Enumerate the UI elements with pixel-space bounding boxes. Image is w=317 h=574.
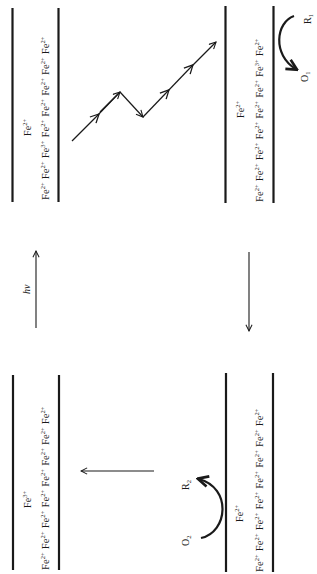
reduction-curved-arrow [199,479,223,538]
panel-top-right-surface-label: Fe2+ [235,101,246,118]
panel-bottom-right-ion-chain: Fe2+Fe2+Fe2+Fe2+Fe2+Fe2+Fe2+Fe2+ [254,405,266,572]
panel-bottom-left-membranes [13,375,59,570]
reduced-species-r2: R2 [181,480,193,490]
diagram-canvas: Fe2+ Fe2+Fe2+Fe3+Fe2+Fe2+Fe2+Fe2+Fe2+ Fe… [0,0,317,574]
panel-bottom-right-surface-label: Fe2+ [234,505,245,522]
excitation-label-hv: hν [22,284,32,294]
panel-bottom-right-membranes [226,373,273,572]
oxidized-species-o1: O1 [300,71,312,82]
oxidized-species-o2: O2 [181,535,193,546]
panel-bottom-left-ion-chain: Fe2+Fe2+Fe2+Fe2+Fe2+Fe2+Fe2+Fe2+ [40,403,52,570]
panel-top-right-membranes [226,6,274,203]
panel-top-left-surface-label: Fe2+ [22,119,33,136]
panel-bottom-left-surface-label: Fe3+ [22,491,33,508]
panel-top-left-membranes [13,8,59,202]
hopping-path [72,42,216,141]
oxidation-curved-arrow [279,16,296,69]
reduced-species-r1: R1 [303,14,315,24]
panel-top-left-ion-chain: Fe2+Fe2+Fe3+Fe2+Fe2+Fe2+Fe2+Fe2+ [40,33,52,200]
panel-top-right-ion-chain: Fe2+Fe2+Fe2+Fe2+Fe2+Fe2+Fe3+Fe2+ [254,35,266,202]
